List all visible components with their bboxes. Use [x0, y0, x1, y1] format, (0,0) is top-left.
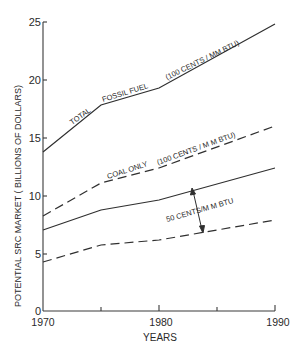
label-coal-only: COAL ONLY [106, 159, 149, 181]
line-total-fossil-fuel [43, 24, 275, 152]
y-tick-10: 10 [29, 190, 41, 202]
series [43, 24, 275, 262]
x-axis-title: YEARS [143, 332, 177, 343]
line-coal-only-100 [43, 126, 275, 216]
y-tick-labels: 25 20 15 10 5 0 [29, 16, 41, 317]
y-tick-5: 5 [35, 248, 41, 260]
y-tick-25: 25 [29, 16, 41, 28]
x-tick-1970: 1970 [31, 316, 55, 328]
x-tick-1980: 1980 [149, 316, 173, 328]
label-total-price: (100 CENTS / MM BTU) [164, 38, 241, 82]
y-axis-title: POTENTIAL SRC MARKET ( BILLIONS OF DOLLA… [13, 85, 23, 307]
y-tick-15: 15 [29, 132, 41, 144]
x-tick-labels: 1970 1980 1990 [31, 316, 290, 328]
line-labels: TOTAL FOSSIL FUEL (100 CENTS / MM BTU) C… [68, 38, 241, 224]
x-tick-1990: 1990 [266, 316, 290, 328]
label-coal-price: (100 CENTS / M M BTU) [156, 130, 237, 167]
src-market-chart: 25 20 15 10 5 0 1970 1980 1990 YEARS POT… [0, 0, 301, 356]
label-total: TOTAL [68, 106, 92, 127]
y-tick-20: 20 [29, 74, 41, 86]
line-coal-50 [43, 220, 275, 262]
line-coal-solid [43, 168, 275, 230]
